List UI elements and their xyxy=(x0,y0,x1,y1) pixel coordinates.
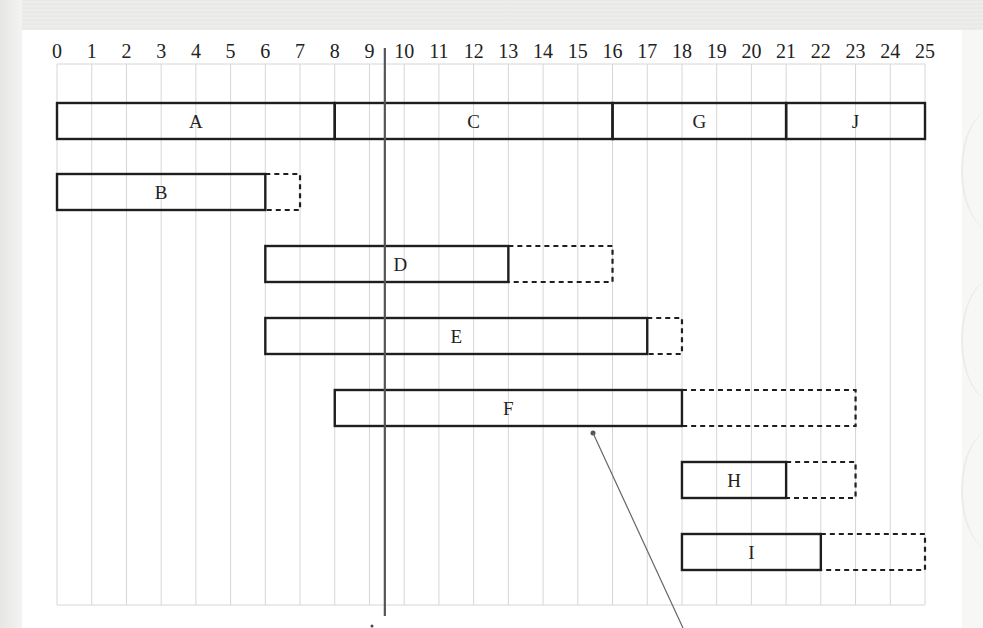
task-label: H xyxy=(727,470,741,491)
x-tick-label: 21 xyxy=(776,40,796,62)
x-tick-label: 24 xyxy=(880,40,900,62)
x-tick-label: 11 xyxy=(429,40,448,62)
task-bar-a: A xyxy=(57,103,335,139)
x-tick-label: 18 xyxy=(672,40,692,62)
x-tick-label: 9 xyxy=(364,40,374,62)
x-tick-label: 5 xyxy=(226,40,236,62)
task-label: F xyxy=(503,398,514,419)
x-tick-label: 7 xyxy=(295,40,305,62)
float-box xyxy=(647,318,682,354)
x-tick-label: 20 xyxy=(741,40,761,62)
leader-line xyxy=(371,431,684,628)
x-tick-label: 17 xyxy=(637,40,657,62)
x-tick-label: 15 xyxy=(568,40,588,62)
task-label: D xyxy=(393,254,407,275)
task-label: B xyxy=(155,182,168,203)
x-tick-label: 1 xyxy=(87,40,97,62)
task-label: C xyxy=(467,111,480,132)
task-bar-c: C xyxy=(335,103,613,139)
x-tick-label: 22 xyxy=(811,40,831,62)
x-tick-label: 8 xyxy=(330,40,340,62)
x-tick-label: 4 xyxy=(191,40,201,62)
duration-box xyxy=(265,246,508,282)
task-label: J xyxy=(852,111,859,132)
x-tick-label: 25 xyxy=(915,40,935,62)
x-tick-label: 14 xyxy=(533,40,553,62)
x-tick-label: 2 xyxy=(121,40,131,62)
x-tick-label: 3 xyxy=(156,40,166,62)
x-tick-label: 10 xyxy=(394,40,414,62)
task-label: A xyxy=(189,111,203,132)
task-bar-b: B xyxy=(57,174,300,210)
x-tick-label: 16 xyxy=(603,40,623,62)
x-tick-label: 23 xyxy=(846,40,866,62)
task-bar-f: F xyxy=(335,390,856,426)
x-axis-ticks: 0123456789101112131415161718192021222324… xyxy=(52,40,935,62)
task-bar-h: H xyxy=(682,462,856,498)
x-tick-label: 6 xyxy=(260,40,270,62)
x-tick-label: 19 xyxy=(707,40,727,62)
float-box xyxy=(821,534,925,570)
float-box xyxy=(508,246,612,282)
task-bar-e: E xyxy=(265,318,682,354)
x-tick-label: 12 xyxy=(464,40,484,62)
task-label: I xyxy=(748,542,754,563)
gantt-chart: 0123456789101112131415161718192021222324… xyxy=(0,0,983,628)
float-box xyxy=(265,174,300,210)
task-label: G xyxy=(692,111,706,132)
x-tick-label: 13 xyxy=(498,40,518,62)
task-bar-j: J xyxy=(786,103,925,139)
task-bars: ACGJBDEFHI xyxy=(57,103,925,570)
x-tick-label: 0 xyxy=(52,40,62,62)
task-bar-d: D xyxy=(265,246,612,282)
task-label: E xyxy=(450,326,462,347)
task-bar-i: I xyxy=(682,534,925,570)
task-bar-g: G xyxy=(613,103,787,139)
float-box xyxy=(682,390,856,426)
